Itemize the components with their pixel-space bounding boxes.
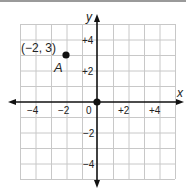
y-axis-label: y [85,10,93,24]
x-axis-left-arrow-icon [8,99,16,105]
y-tick-neg4: −4 [83,159,95,170]
origin-point [93,98,100,105]
x-axis-label: x [176,86,184,100]
point-a [62,51,69,58]
y-tick-pos2: +2 [82,66,94,77]
y-tick-neg2: −2 [83,128,95,139]
origin-label: 0 [86,105,92,116]
x-tick-pos4: +4 [149,105,161,116]
y-axis-down-arrow-icon [94,180,100,188]
y-tick-pos4: +4 [82,35,94,46]
x-tick-pos2: +2 [118,105,130,116]
coordinate-plane: y x −4 −2 0 +2 +4 +4 +2 −2 −4 (−2, 3) A [0,0,186,189]
y-axis-up-arrow-icon [94,14,100,22]
x-tick-neg4: −4 [27,105,39,116]
x-tick-neg2: −2 [58,105,70,116]
point-a-label: A [53,60,63,75]
point-a-coords: (−2, 3) [21,41,56,55]
